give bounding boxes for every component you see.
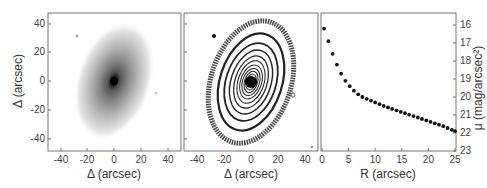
y-tick-labels: 16 17 18 19 20 21 22 23 [460,19,472,156]
data-point [369,99,373,103]
data-point [441,124,445,128]
panel-frame [321,13,456,151]
profile-data-points [322,27,457,133]
svg-text:-40: -40 [31,133,46,144]
profile-panel: 0 5 10 15 20 25 16 17 18 19 20 21 22 23 … [319,13,485,181]
data-point [335,63,339,67]
x-axis-label: Δ (arcsec) [87,167,141,181]
data-point [365,97,369,101]
data-point [399,110,403,114]
svg-text:0: 0 [111,154,117,165]
svg-text:0: 0 [39,75,45,86]
data-point [416,116,420,120]
isophote-panel: -40 -20 0 20 40 Δ (arcsec) [184,10,318,181]
svg-text:20: 20 [460,91,472,102]
data-point [378,102,382,106]
x-tick-labels: 0 5 10 15 20 25 [319,154,461,165]
svg-text:20: 20 [272,154,284,165]
data-point [420,117,424,121]
svg-text:16: 16 [460,19,472,30]
data-point [412,114,416,118]
data-point [403,111,407,115]
data-point [407,113,411,117]
data-point [352,89,356,93]
data-point [390,107,394,111]
data-point [331,52,335,56]
svg-text:21: 21 [460,109,472,120]
svg-text:22: 22 [460,127,472,138]
data-point [437,123,441,127]
x-axis-label: Δ (arcsec) [224,167,278,181]
data-point [424,119,428,123]
data-point [386,106,390,110]
svg-text:20: 20 [135,154,147,165]
y-tick-labels: 40 20 0 -20 -40 [31,18,46,144]
svg-text:5: 5 [346,154,352,165]
data-point [339,72,343,76]
data-point [322,27,326,31]
svg-text:-20: -20 [80,154,95,165]
data-point [361,95,365,99]
data-point [348,84,352,88]
y-axis-label: μ (mag/arcsec²) [471,46,485,130]
data-point [429,120,433,124]
svg-text:-20: -20 [31,104,46,115]
svg-text:40: 40 [299,154,311,165]
svg-text:18: 18 [460,55,472,66]
svg-text:15: 15 [396,154,408,165]
svg-text:20: 20 [34,46,46,57]
galaxy-image [59,10,170,151]
svg-text:10: 10 [370,154,382,165]
data-point [344,79,348,83]
data-point [382,104,386,108]
svg-text:0: 0 [248,154,254,165]
x-axis-label: R (arcsec) [360,167,415,181]
svg-text:40: 40 [34,18,46,29]
isophote-contours [193,10,313,155]
svg-text:0: 0 [319,154,325,165]
x-tick-labels: -40 -20 0 20 40 [190,154,311,165]
y-axis-label: Δ (arcsec) [11,54,25,108]
data-point [356,92,360,96]
svg-text:17: 17 [460,37,472,48]
svg-text:-40: -40 [54,154,69,165]
data-point [373,101,377,105]
figure: 40 20 0 -20 -40 -40 -20 0 20 40 Δ (arcse… [0,0,487,188]
data-point [327,39,331,43]
data-point [446,126,450,130]
data-point [395,108,399,112]
x-tick-labels: -40 -20 0 20 40 [54,154,174,165]
svg-text:23: 23 [460,145,472,156]
svg-text:-20: -20 [217,154,232,165]
svg-text:-40: -40 [190,154,205,165]
data-point [433,121,437,125]
svg-text:20: 20 [423,154,435,165]
svg-text:40: 40 [162,154,174,165]
image-panel: 40 20 0 -20 -40 -40 -20 0 20 40 Δ (arcse… [11,10,181,181]
svg-text:19: 19 [460,73,472,84]
